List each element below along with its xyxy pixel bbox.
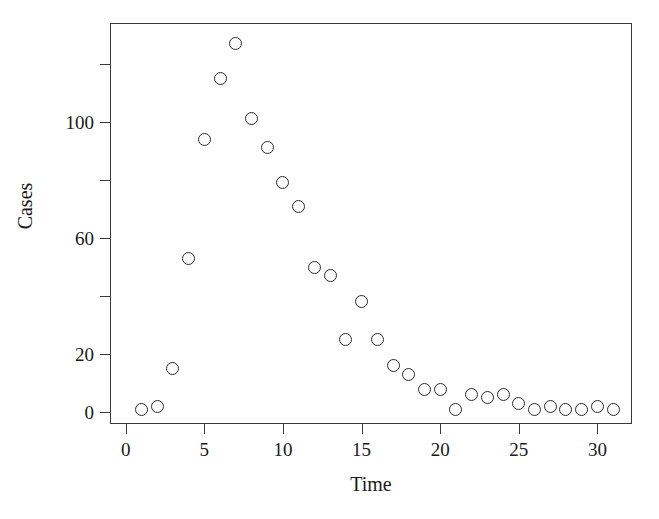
data-point — [214, 72, 227, 85]
data-point — [166, 362, 179, 375]
data-point — [434, 383, 447, 396]
data-point — [276, 176, 289, 189]
y-tick — [100, 296, 110, 297]
data-point — [402, 368, 415, 381]
y-tick — [100, 238, 110, 239]
data-point — [198, 133, 211, 146]
plot-area — [110, 23, 632, 424]
x-tick-label: 10 — [253, 440, 313, 459]
x-tick — [440, 424, 441, 434]
data-point — [575, 403, 588, 416]
x-tick — [204, 424, 205, 434]
x-tick — [126, 424, 127, 434]
x-tick-label: 20 — [410, 440, 470, 459]
data-point — [355, 295, 368, 308]
x-tick — [283, 424, 284, 434]
x-tick-label: 15 — [332, 440, 392, 459]
data-point — [182, 252, 195, 265]
scatter-plot-figure: 02060100 051015202530 Cases Time — [0, 0, 659, 519]
data-point — [324, 269, 337, 282]
data-point — [559, 403, 572, 416]
x-tick-label: 25 — [489, 440, 549, 459]
y-tick-label: 100 — [0, 113, 94, 132]
y-tick — [100, 180, 110, 181]
data-point — [591, 400, 604, 413]
data-point — [261, 141, 274, 154]
data-point — [512, 397, 525, 410]
data-point — [481, 391, 494, 404]
y-tick — [100, 354, 110, 355]
data-point — [449, 403, 462, 416]
data-point — [607, 403, 620, 416]
data-point — [151, 400, 164, 413]
data-point — [135, 403, 148, 416]
y-tick — [100, 64, 110, 65]
x-tick — [597, 424, 598, 434]
data-point — [528, 403, 541, 416]
x-tick — [362, 424, 363, 434]
x-tick-label: 5 — [174, 440, 234, 459]
data-point — [465, 388, 478, 401]
y-tick — [100, 412, 110, 413]
data-point — [292, 200, 305, 213]
x-tick-label: 30 — [567, 440, 627, 459]
data-point — [229, 37, 242, 50]
x-tick — [519, 424, 520, 434]
y-tick — [100, 122, 110, 123]
data-point — [497, 388, 510, 401]
y-tick-label: 20 — [0, 345, 94, 364]
data-point — [339, 333, 352, 346]
data-point — [418, 383, 431, 396]
data-point — [544, 400, 557, 413]
x-axis-title: Time — [110, 474, 632, 494]
data-point — [245, 112, 258, 125]
data-point — [387, 359, 400, 372]
x-axis-tick-labels: 051015202530 — [110, 440, 632, 466]
x-tick-label: 0 — [96, 440, 156, 459]
y-axis-title: Cases — [15, 146, 35, 266]
y-tick-label: 0 — [0, 403, 94, 422]
data-point — [308, 261, 321, 274]
data-point — [371, 333, 384, 346]
